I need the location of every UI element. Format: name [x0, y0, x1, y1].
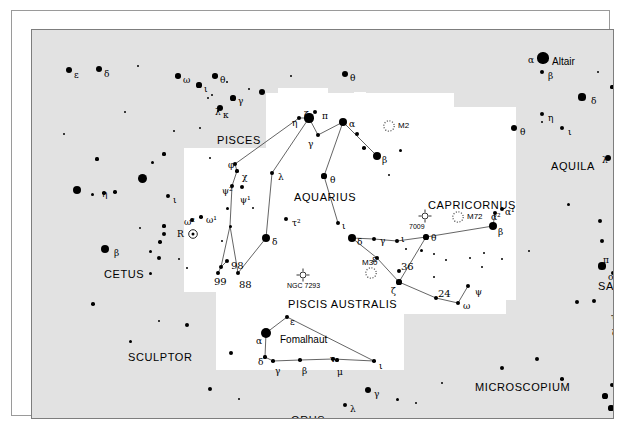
bayer-designation-label: ψ²: [222, 187, 233, 196]
constellation-label: CAPRICORNUS: [428, 200, 516, 211]
star-dot: [535, 357, 540, 362]
constellation-label: SCULPTOR: [128, 352, 193, 363]
star-dot: [199, 127, 202, 130]
bayer-designation-label: γ: [380, 237, 385, 246]
bayer-designation-label: ζ: [612, 329, 614, 338]
variable-star-icon: [187, 226, 199, 244]
bayer-designation-label: α²: [491, 213, 501, 222]
bayer-designation-label: χ: [242, 173, 247, 182]
bayer-designation-label: θ: [520, 128, 525, 137]
constellation-label: MICROSCOPIUM: [475, 382, 570, 393]
star-dot: [372, 359, 376, 363]
star-dot: [313, 110, 317, 114]
constellation-label: PISCIS AUSTRALIS: [288, 299, 397, 310]
bayer-designation-label: γ: [374, 390, 379, 399]
star-dot: [592, 299, 597, 304]
star-dot: [575, 300, 579, 304]
highlight-region: [354, 92, 366, 100]
bayer-designation-label: α: [349, 120, 355, 129]
bayer-designation-label: δ: [104, 70, 109, 79]
star-dot: [373, 152, 381, 160]
star-dot: [211, 94, 214, 97]
star-dot: [597, 71, 600, 74]
bayer-designation-label: 98: [231, 261, 244, 271]
bayer-designation-label: ι: [401, 235, 405, 244]
star-dot: [598, 219, 603, 224]
bayer-designation-label: π: [603, 256, 609, 265]
deep-sky-object-label: M72: [467, 213, 483, 221]
star-dot: [235, 169, 238, 172]
star-dot: [166, 194, 170, 198]
star-dot: [229, 225, 232, 228]
star-dot: [91, 302, 95, 306]
star-dot: [151, 161, 154, 164]
star-dot: [528, 250, 531, 253]
bayer-designation-label: δ: [357, 238, 362, 247]
star-dot: [540, 112, 544, 116]
bayer-designation-label: β: [302, 367, 307, 376]
star-dot: [230, 95, 235, 100]
bayer-designation-label: μ: [337, 368, 343, 377]
bayer-designation-label: ι: [173, 196, 177, 205]
bayer-designation-label: θ: [431, 234, 436, 243]
bayer-designation-label: ω¹: [206, 216, 217, 225]
star-dot: [91, 193, 94, 196]
star-dot: [73, 186, 81, 194]
globular-cluster-icon: [451, 210, 465, 224]
bayer-designation-label: β: [498, 228, 503, 237]
star-chart-image: M27009M72NGC 7293M30 PISCESAQUARIUSCAPRI…: [0, 0, 621, 427]
star-dot: [212, 73, 218, 79]
bayer-designation-label: ε: [74, 71, 79, 80]
star-dot: [396, 279, 401, 284]
star-dot: [298, 358, 302, 362]
star-dot: [229, 351, 233, 355]
bayer-designation-label: ψ: [475, 288, 482, 297]
star-dot: [420, 249, 423, 252]
star-dot: [238, 398, 241, 401]
bayer-designation-label: 36: [401, 262, 414, 272]
star-dot: [149, 272, 152, 275]
bayer-designation-label: ι: [568, 128, 572, 137]
bayer-designation-label: α: [256, 337, 262, 346]
bayer-designation-label: γ: [308, 140, 313, 149]
star-dot: [236, 271, 240, 275]
bayer-designation-label: ω: [463, 302, 470, 311]
bayer-designation-label: λ: [278, 173, 284, 182]
star-dot: [162, 152, 165, 155]
star-dot: [263, 355, 266, 358]
star-dot: [124, 111, 127, 114]
globular-cluster-icon: [364, 266, 378, 280]
star-dot: [560, 126, 565, 131]
proper-star-name-label: Fomalhaut: [280, 335, 327, 345]
constellation-label: AQUILA: [551, 161, 595, 172]
star-dot: [178, 258, 181, 261]
bayer-designation-label: θ: [220, 76, 225, 85]
star-dot: [158, 240, 161, 243]
star-dot: [196, 82, 201, 87]
bayer-designation-label: R: [177, 230, 184, 239]
star-dot: [208, 387, 212, 391]
star-dot: [226, 207, 229, 210]
star-dot: [600, 239, 605, 244]
star-dot: [173, 130, 176, 133]
star-dot: [96, 66, 102, 72]
chart-inner-frame: M27009M72NGC 7293M30 PISCESAQUARIUSCAPRI…: [31, 29, 614, 419]
star-dot: [185, 323, 189, 327]
bayer-designation-label: θ: [330, 176, 335, 185]
proper-star-name-label: Altair: [552, 57, 575, 67]
star-dot: [343, 403, 347, 407]
bayer-designation-label: λ: [350, 405, 356, 414]
bayer-designation-label: τ: [330, 355, 335, 364]
bayer-designation-label: λ: [602, 156, 608, 165]
bayer-designation-label: π: [322, 112, 328, 121]
bayer-designation-label: φ: [228, 161, 234, 170]
star-dot: [129, 340, 132, 343]
highlight-region: [278, 88, 328, 108]
planetary-nebula-icon: [418, 209, 432, 223]
star-dot: [321, 173, 326, 178]
bayer-designation-label: ω: [183, 76, 190, 85]
bayer-designation-label: 88: [239, 280, 252, 290]
constellation-label: SAGITTARIUS: [598, 281, 614, 292]
star-dot: [248, 88, 251, 91]
deep-sky-object-label: 7009: [409, 223, 425, 230]
